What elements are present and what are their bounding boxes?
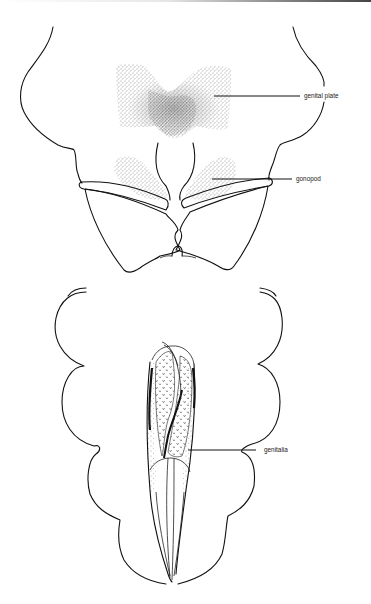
illustration: genital plate gonopod bbox=[0, 0, 371, 604]
gonopod-right-shape bbox=[184, 157, 236, 200]
left-wing-plate bbox=[85, 189, 180, 272]
central-duct-right bbox=[172, 458, 174, 580]
inner-lobe-left bbox=[156, 492, 170, 576]
genital-plate-label: genital plate bbox=[304, 92, 339, 100]
lower-figure: genitalia bbox=[55, 292, 288, 584]
upper-figure: genital plate gonopod bbox=[21, 27, 339, 296]
right-wing-plate bbox=[176, 186, 268, 270]
right-scalloped-outline bbox=[178, 292, 282, 584]
central-duct-left bbox=[167, 458, 170, 578]
right-body-outline-lower bbox=[269, 102, 324, 180]
central-bridge bbox=[160, 256, 196, 258]
genitalia-label: genitalia bbox=[264, 446, 288, 454]
left-body-outline bbox=[21, 27, 82, 183]
gonopod-label: gonopod bbox=[296, 175, 321, 183]
right-body-outline bbox=[293, 27, 324, 86]
inner-lobe-right bbox=[174, 492, 184, 576]
